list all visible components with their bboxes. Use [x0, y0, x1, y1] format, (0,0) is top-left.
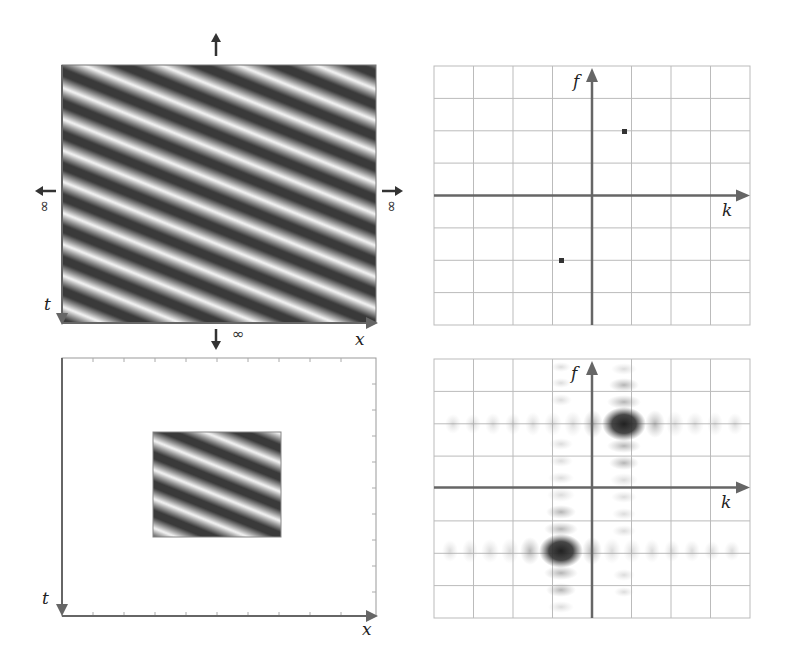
f-axis-label: f — [571, 365, 577, 382]
spectrum-smeared-plot — [0, 0, 792, 661]
k-axis-label: k — [721, 494, 731, 511]
panel-windowed-wave-spectrum: f k — [0, 0, 792, 661]
spectrum-peak — [539, 534, 583, 568]
spectrum-peak — [602, 407, 646, 441]
